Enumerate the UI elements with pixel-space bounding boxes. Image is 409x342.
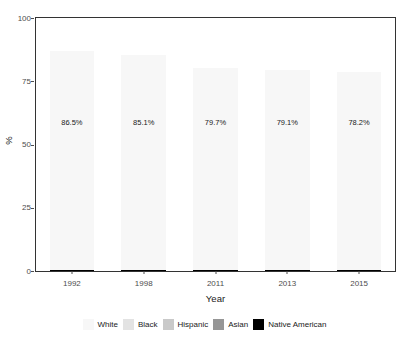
- bar-segment-white: [193, 68, 238, 270]
- bar-value-label: 85.1%: [121, 118, 166, 127]
- x-axis-ticks: 19921998201120132015: [35, 271, 396, 293]
- y-axis-title-text: %: [3, 136, 14, 145]
- y-axis-tick-mark: [31, 18, 34, 19]
- x-axis-tick-label-2015: 2015: [350, 279, 368, 288]
- legend-item-black[interactable]: Black: [123, 319, 158, 330]
- x-axis-tick-mark: [287, 271, 288, 274]
- x-axis-tick-label-2011: 2011: [207, 279, 224, 288]
- legend-label: Native American: [268, 320, 326, 329]
- bar-value-label: 78.2%: [337, 118, 382, 127]
- legend-swatch-icon: [253, 319, 264, 330]
- bar-value-label: 79.7%: [193, 118, 238, 127]
- x-axis-tick-label-1998: 1998: [135, 279, 153, 288]
- y-axis-title: %: [1, 0, 15, 281]
- x-axis-title: Year: [35, 293, 396, 304]
- bar-2015: 78.2%: [337, 18, 382, 271]
- legend-item-hispanic[interactable]: Hispanic: [163, 319, 209, 330]
- y-axis-ticks: 0255075100: [14, 0, 31, 281]
- chart-legend: WhiteBlackHispanicAsianNative American: [0, 313, 409, 335]
- bar-segment-white: [337, 72, 382, 270]
- plot-area: 86.5%85.1%79.7%79.1%78.2%: [36, 18, 395, 271]
- x-axis-title-text: Year: [206, 293, 226, 304]
- y-axis-tick-mark: [31, 208, 34, 209]
- legend-label: Black: [138, 320, 158, 329]
- x-axis-tick-label-2013: 2013: [278, 279, 296, 288]
- bar-value-label: 86.5%: [50, 118, 95, 127]
- legend-swatch-icon: [83, 319, 94, 330]
- x-axis-tick-mark: [143, 271, 144, 274]
- stacked-bar-chart: % 0255075100 86.5%85.1%79.7%79.1%78.2% 1…: [0, 0, 409, 342]
- x-axis-tick-mark: [359, 271, 360, 274]
- y-axis-tick-mark: [31, 81, 34, 82]
- plot-panel: 86.5%85.1%79.7%79.1%78.2%: [35, 17, 396, 272]
- y-axis-tick-mark: [31, 145, 34, 146]
- bar-2013: 79.1%: [265, 18, 310, 271]
- bar-segment-white: [50, 51, 95, 270]
- legend-item-white[interactable]: White: [83, 319, 118, 330]
- bar-1998: 85.1%: [121, 18, 166, 271]
- bar-value-label: 79.1%: [265, 118, 310, 127]
- legend-label: Hispanic: [178, 320, 209, 329]
- y-axis-tick-mark: [31, 271, 34, 272]
- legend-item-native-american[interactable]: Native American: [253, 319, 326, 330]
- y-axis-tick-label: 50: [22, 139, 31, 150]
- y-axis-tick-label: 100: [18, 13, 31, 24]
- y-axis-tick-label: 75: [22, 76, 31, 87]
- bar-segment-white: [265, 70, 310, 270]
- x-axis-tick-label-1992: 1992: [63, 279, 81, 288]
- legend-label: Asian: [228, 320, 248, 329]
- bar-1992: 86.5%: [50, 18, 95, 271]
- bar-segment-white: [121, 55, 166, 270]
- bar-2011: 79.7%: [193, 18, 238, 271]
- x-axis-tick-mark: [215, 271, 216, 274]
- legend-label: White: [98, 320, 118, 329]
- legend-swatch-icon: [213, 319, 224, 330]
- y-axis-tick-label: 25: [22, 202, 31, 213]
- legend-swatch-icon: [123, 319, 134, 330]
- x-axis-tick-mark: [71, 271, 72, 274]
- legend-swatch-icon: [163, 319, 174, 330]
- legend-item-asian[interactable]: Asian: [213, 319, 248, 330]
